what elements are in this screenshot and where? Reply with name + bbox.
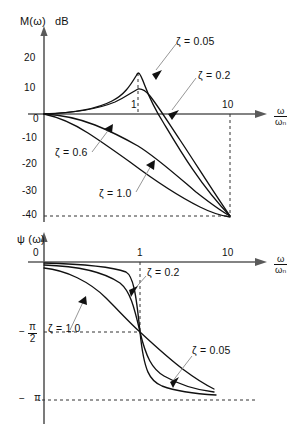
leader-zeta-0-05-magnitude [156,44,176,70]
phase-x-axis-label-den: ωₙ [274,264,287,275]
magnitude-y-axis-arrow [40,26,47,36]
phase-xtick-1: 1 [137,248,143,258]
phase-ytick-half-pi-den: 2 [28,333,37,345]
bode-plot-figure: M(ω) dB 20 10 0 -10 -20 -30 -40 1 10 ω ω… [0,0,307,435]
arrowhead-zeta-0-05-magnitude [152,70,162,80]
arrowhead-zeta-1-0-magnitude [146,160,155,170]
phase-ytick-minus-half-pi: π 2 [28,322,37,344]
phase-ytick-half-pi-num: π [28,322,37,333]
phase-annotation-zeta-0-2: ζ = 0.2 [147,267,180,278]
leader-zeta-0-6-magnitude [92,128,110,152]
phase-annotation-zeta-1-0: ζ = 1.0 [48,323,81,334]
phase-x-axis-label-num: ω [274,254,287,264]
magnitude-annotation-zeta-0-05: ζ = 0.05 [176,36,215,47]
magnitude-xtick-1: 1 [131,100,137,110]
phase-ytick-0: 0 [33,248,39,258]
phase-annotation-zeta-0-05: ζ = 0.05 [192,345,231,356]
magnitude-annotation-zeta-1-0: ζ = 1.0 [99,188,132,199]
magnitude-xtick-10: 10 [222,100,234,110]
magnitude-x-axis-label: ω ωₙ [274,106,287,127]
leader-zeta-0-2-magnitude [172,78,196,110]
phase-ytick-minus-pi-sign: − [19,394,25,404]
magnitude-ytick-minus20: -20 [22,159,37,169]
leader-zeta-0-05-phase [172,356,192,382]
phase-ytick-minus-half-pi-sign: − [19,327,25,337]
phase-y-axis-label: ψ (ω) [17,234,45,245]
magnitude-ytick-minus30: -30 [22,186,37,196]
magnitude-annotation-zeta-0-6: ζ = 0.6 [55,147,88,158]
magnitude-y-axis-unit: dB [55,16,69,27]
magnitude-curve-zeta-0-6 [44,114,230,216]
magnitude-ytick-0: 0 [33,114,39,124]
phase-xtick-10: 10 [222,248,234,258]
magnitude-ytick-10: 10 [24,83,36,93]
magnitude-curve-zeta-0-05 [44,73,230,216]
phase-x-axis-label: ω ωₙ [274,254,287,275]
magnitude-y-axis-label: M(ω) [20,16,46,27]
magnitude-curve-zeta-1-0 [44,114,230,217]
phase-x-axis-arrow [255,258,267,266]
arrowhead-zeta-0-6-magnitude [104,124,113,133]
magnitude-ytick-20: 20 [24,53,36,63]
magnitude-annotation-zeta-0-2: ζ = 0.2 [198,70,231,81]
magnitude-plot-group [28,26,267,222]
phase-ytick-minus-pi: π [34,393,41,403]
magnitude-ytick-minus40: -40 [22,210,37,220]
plot-canvas [0,0,307,435]
magnitude-x-axis-arrow [255,110,267,118]
magnitude-x-axis-label-num: ω [274,106,287,116]
magnitude-ytick-minus10: -10 [22,133,37,143]
arrowhead-zeta-0-2-magnitude [168,110,179,120]
magnitude-x-axis-label-den: ωₙ [274,116,287,127]
